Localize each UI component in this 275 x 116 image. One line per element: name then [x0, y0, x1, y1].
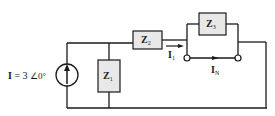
z3-label: Z3	[206, 19, 216, 30]
source-label-eq: =	[14, 70, 20, 81]
terminal-right	[235, 55, 241, 61]
i1-arrow-icon	[166, 44, 184, 48]
source-label-name: I	[8, 70, 12, 81]
i1-label: I1	[168, 50, 175, 61]
terminal-left	[184, 55, 190, 61]
source-magnitude: 3	[23, 70, 28, 81]
z1-label: Z1	[103, 71, 113, 82]
in-label: IN	[211, 65, 219, 76]
current-source	[56, 64, 78, 86]
source-angle: ∠0°	[30, 71, 46, 81]
circuit-diagram	[0, 0, 275, 116]
source-label: I = 3 ∠0°	[8, 71, 46, 81]
z2-label: Z2	[141, 35, 151, 46]
in-arrow-icon	[212, 56, 219, 60]
